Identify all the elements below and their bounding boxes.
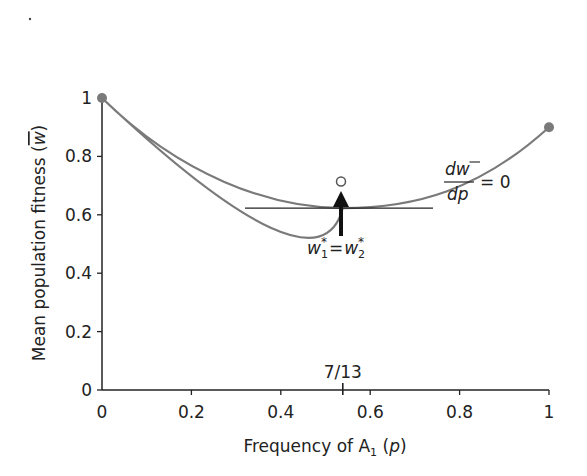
fitness-chart: 0 0.2 0.4 0.6 0.8 1 0 0.2 0.4 0.6 0.8 1 … bbox=[0, 0, 587, 476]
svg-text:0.4: 0.4 bbox=[267, 402, 294, 422]
svg-text:dp: dp bbox=[447, 184, 469, 204]
svg-text:0.6: 0.6 bbox=[357, 402, 384, 422]
svg-text:1: 1 bbox=[81, 88, 92, 108]
svg-text:0.6: 0.6 bbox=[65, 205, 92, 225]
x-ticks bbox=[191, 383, 549, 395]
svg-text:0.2: 0.2 bbox=[178, 402, 205, 422]
svg-text:dw: dw bbox=[445, 159, 470, 179]
speck bbox=[29, 18, 31, 20]
svg-text:0: 0 bbox=[97, 402, 108, 422]
svg-text:1: 1 bbox=[544, 402, 555, 422]
fitness-curve bbox=[102, 98, 549, 238]
svg-text:= 0: = 0 bbox=[480, 172, 510, 192]
arrow-icon bbox=[333, 191, 349, 236]
endpoint-p1 bbox=[544, 122, 554, 132]
svg-text:0.2: 0.2 bbox=[65, 322, 92, 342]
equilibrium-point bbox=[337, 177, 346, 186]
svg-text:0.8: 0.8 bbox=[446, 402, 473, 422]
svg-text:0.4: 0.4 bbox=[65, 263, 92, 283]
y-axis-title: Mean population fitness (w) bbox=[29, 125, 49, 362]
x-axis-title: Frequency of A1 (p) bbox=[243, 436, 406, 459]
x-tick-labels: 0 0.2 0.4 0.6 0.8 1 bbox=[97, 402, 555, 422]
equilibrium-tick-label: 7/13 bbox=[324, 362, 362, 382]
endpoint-p0 bbox=[97, 93, 107, 103]
svg-text:0.8: 0.8 bbox=[65, 146, 92, 166]
y-tick-labels: 0 0.2 0.4 0.6 0.8 1 bbox=[65, 88, 92, 400]
svg-text:0: 0 bbox=[81, 380, 92, 400]
equilibrium-condition-label: w1*=w2* bbox=[307, 235, 365, 261]
